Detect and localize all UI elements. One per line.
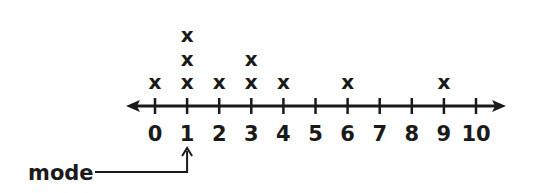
tick-label: 9 <box>437 122 452 146</box>
tick-label: 1 <box>180 122 195 146</box>
mode-connector-line <box>95 151 187 172</box>
x-mark: x <box>245 70 258 94</box>
tick-label: 6 <box>340 122 355 146</box>
tick-label: 10 <box>461 122 490 146</box>
dot-plot: 012345678910 xxxxxxxxxx mode <box>0 0 536 193</box>
tick-label: 0 <box>148 122 163 146</box>
tick-label: 4 <box>276 122 291 146</box>
tick-label: 8 <box>404 122 419 146</box>
x-mark: x <box>213 70 226 94</box>
data-marks: xxxxxxxxxx <box>149 23 451 94</box>
mode-annotation: mode <box>28 148 192 185</box>
x-mark: x <box>181 70 194 94</box>
x-mark: x <box>149 70 162 94</box>
mode-label: mode <box>28 161 94 185</box>
tick-label: 2 <box>212 122 227 146</box>
x-mark: x <box>437 70 450 94</box>
x-mark: x <box>341 70 354 94</box>
x-mark: x <box>245 47 258 71</box>
x-mark: x <box>277 70 290 94</box>
tick-label: 7 <box>372 122 387 146</box>
tick-label: 3 <box>244 122 259 146</box>
x-mark: x <box>181 23 194 47</box>
tick-labels: 012345678910 <box>148 122 491 146</box>
x-mark: x <box>181 47 194 71</box>
tick-label: 5 <box>308 122 323 146</box>
